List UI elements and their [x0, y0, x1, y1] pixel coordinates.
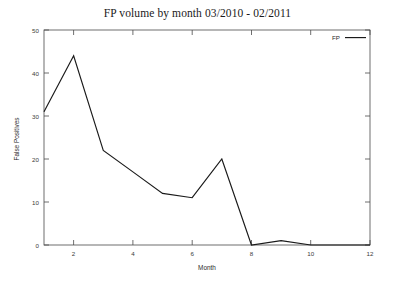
legend: FP	[332, 34, 366, 41]
y-tick-labels: 0 10 20 30 40 50	[32, 27, 39, 249]
series-line-fp	[44, 56, 370, 245]
y-tick-label: 50	[32, 27, 39, 34]
y-tick-label: 10	[32, 199, 39, 206]
y-tick-label: 30	[32, 113, 39, 120]
x-tick-label: 8	[250, 250, 254, 257]
x-tick-label: 6	[190, 250, 194, 257]
x-tick-label: 4	[131, 250, 135, 257]
y-tick-label: 40	[32, 70, 39, 77]
y-axis-ticks	[44, 30, 370, 245]
plot-area: 0 10 20 30 40 50 2 4 6 8	[0, 0, 395, 281]
y-tick-label: 0	[36, 242, 40, 249]
y-axis-title: False Positives	[13, 118, 20, 161]
plot-frame	[44, 30, 370, 245]
x-axis-title: Month	[198, 264, 216, 271]
series-group	[44, 56, 370, 245]
legend-label-fp: FP	[332, 34, 340, 41]
chart-figure: FP volume by month 03/2010 - 02/2011 0 1…	[0, 0, 395, 281]
y-tick-label: 20	[32, 156, 39, 163]
x-tick-label: 12	[367, 250, 374, 257]
x-tick-labels: 2 4 6 8 10 12	[72, 250, 374, 257]
x-axis-ticks	[74, 30, 370, 245]
x-tick-label: 10	[307, 250, 314, 257]
x-tick-label: 2	[72, 250, 76, 257]
